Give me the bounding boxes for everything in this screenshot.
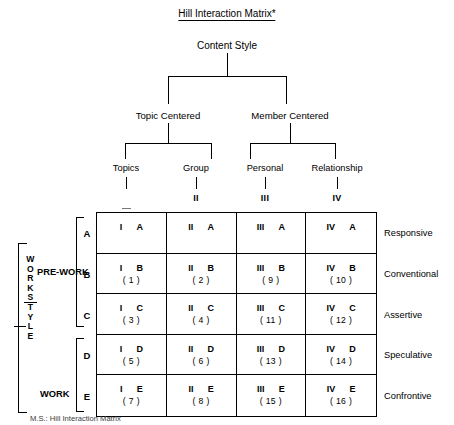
cell-number: ( 4 ): [167, 315, 236, 325]
cell-row-letter: D: [278, 344, 285, 354]
matrix-cell[interactable]: IIA: [167, 213, 237, 254]
row-letter-e: E: [84, 392, 90, 402]
cell-row-letter: C: [349, 303, 356, 313]
ws-letter: E: [26, 332, 35, 342]
row-label-conventional: Conventional: [384, 270, 438, 279]
tick-relationship: [337, 177, 338, 189]
connector-member-bar: [250, 143, 336, 144]
cell-number: ( 1 ): [97, 275, 166, 285]
matrix-cell[interactable]: IVE ( 16 ): [306, 375, 376, 416]
column-numeral-iv: IV: [332, 194, 341, 203]
node-topic-centered: Topic Centered: [136, 111, 201, 121]
cell-number: ( 3 ): [97, 315, 166, 325]
cell-number: ( 16 ): [306, 396, 376, 406]
cell-column-numeral: I: [120, 344, 123, 354]
matrix-cell[interactable]: IA: [97, 213, 167, 254]
cell-column-numeral: II: [188, 222, 193, 232]
cell-column-numeral: III: [257, 222, 265, 232]
cell-column-numeral: IV: [327, 384, 336, 394]
cell-column-numeral: II: [188, 344, 193, 354]
cell-row-letter: D: [136, 344, 143, 354]
matrix-cell[interactable]: IIIB ( 9 ): [237, 254, 307, 295]
matrix-cell[interactable]: IIIC ( 11 ): [237, 294, 307, 335]
connector-topic-right: [211, 143, 212, 159]
column-numeral-ii: II: [193, 194, 199, 203]
cell-row-letter: C: [136, 303, 143, 313]
matrix-cell[interactable]: IIB ( 2 ): [167, 254, 237, 295]
matrix-cell[interactable]: IIID ( 13 ): [237, 335, 307, 376]
connector-member-stem: [290, 123, 291, 143]
tick-work-style-divider: [14, 326, 26, 327]
node-group: Group: [183, 164, 209, 173]
matrix-cell[interactable]: IVA: [306, 213, 376, 254]
row-letter-a: A: [84, 229, 91, 239]
cell-row-letter: E: [349, 384, 355, 394]
cell-column-numeral: III: [257, 303, 265, 313]
faint-mark-column-i: [122, 208, 131, 209]
cell-row-letter: E: [279, 384, 285, 394]
cell-column-numeral: II: [188, 263, 193, 273]
matrix-cell[interactable]: IIIA: [237, 213, 307, 254]
row-letter-c: C: [84, 311, 91, 321]
cell-row-letter: B: [349, 263, 356, 273]
matrix-cell[interactable]: IB ( 1 ): [97, 254, 167, 295]
cell-row-letter: B: [207, 263, 214, 273]
cell-row-letter: C: [278, 303, 285, 313]
work-style-underline: [24, 302, 37, 303]
cell-column-numeral: II: [189, 384, 194, 394]
matrix-cell[interactable]: IIE ( 8 ): [167, 375, 237, 416]
cell-row-letter: C: [207, 303, 214, 313]
matrix-cell[interactable]: IID ( 6 ): [167, 335, 237, 376]
cell-column-numeral: II: [188, 303, 193, 313]
connector-topic-left: [125, 143, 126, 159]
cell-row-letter: B: [278, 263, 285, 273]
page-title: Hill Interaction Matrix*: [178, 9, 275, 21]
connector-tier2-right: [286, 76, 287, 104]
cell-row-letter: E: [137, 384, 143, 394]
node-relationship: Relationship: [311, 164, 362, 173]
matrix-cell[interactable]: IVB ( 10 ): [306, 254, 376, 295]
matrix-cell[interactable]: IIC ( 4 ): [167, 294, 237, 335]
connector-member-right: [335, 143, 336, 159]
connector-member-left: [250, 143, 251, 159]
connector-tier2-bar: [168, 76, 287, 77]
cell-column-numeral: IV: [327, 263, 336, 273]
cell-number: ( 7 ): [97, 396, 166, 406]
cell-column-numeral: III: [257, 263, 265, 273]
bracket-work-rows: [76, 338, 84, 412]
cell-number: ( 11 ): [237, 315, 306, 325]
matrix-cell[interactable]: IC ( 3 ): [97, 294, 167, 335]
cell-row-letter: A: [207, 222, 214, 232]
connector-topic-bar: [125, 143, 212, 144]
cell-number: ( 15 ): [237, 396, 306, 406]
work-style-vertical-label: W O R K S T Y L E: [26, 255, 35, 341]
cell-column-numeral: I: [120, 303, 123, 313]
cell-row-letter: B: [136, 263, 143, 273]
node-member-centered: Member Centered: [251, 111, 328, 121]
cell-row-letter: A: [136, 222, 143, 232]
cell-number: ( 14 ): [306, 356, 376, 366]
matrix-cell[interactable]: IVD ( 14 ): [306, 335, 376, 376]
row-label-assertive: Assertive: [384, 311, 422, 320]
node-personal: Personal: [247, 164, 284, 173]
cell-row-letter: A: [278, 222, 285, 232]
cell-row-letter: E: [208, 384, 214, 394]
cell-column-numeral: IV: [327, 303, 336, 313]
row-label-speculative: Speculative: [384, 351, 432, 360]
tick-group: [196, 177, 197, 189]
cell-number: ( 6 ): [167, 356, 236, 366]
cell-column-numeral: III: [257, 344, 265, 354]
label-pre-work: PRE-WORK: [37, 268, 89, 277]
matrix-cell[interactable]: ID ( 5 ): [97, 335, 167, 376]
tick-personal: [265, 177, 266, 189]
cell-number: ( 8 ): [167, 396, 236, 406]
matrix-cell[interactable]: IE ( 7 ): [97, 375, 167, 416]
cell-row-letter: D: [349, 344, 356, 354]
node-topics: Topics: [113, 164, 139, 173]
matrix-cell[interactable]: IIIE ( 15 ): [237, 375, 307, 416]
matrix-cell[interactable]: IVC ( 12 ): [306, 294, 376, 335]
row-label-confrontive: Confrontive: [384, 392, 432, 401]
hill-interaction-matrix-diagram: Hill Interaction Matrix* Content Style T…: [0, 0, 454, 425]
connector-topic-stem: [168, 123, 169, 143]
cell-column-numeral: III: [257, 384, 265, 394]
